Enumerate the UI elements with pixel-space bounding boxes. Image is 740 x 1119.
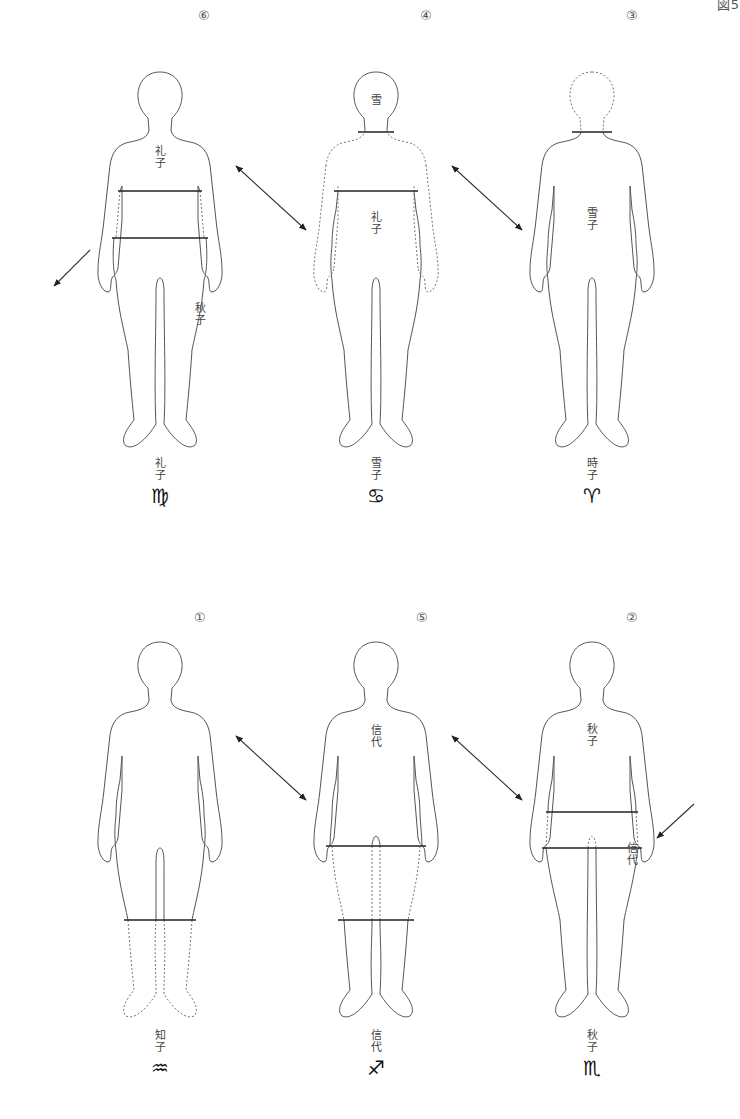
body-outline	[90, 630, 230, 1030]
inner-label-belly: 礼子	[370, 212, 382, 236]
figure-name: 雪子	[370, 458, 382, 482]
inner-label-head: 雪	[370, 95, 382, 107]
arrow-virgo-cancer	[236, 166, 306, 230]
figure-number: ⑤	[416, 610, 428, 625]
body-outline	[90, 60, 230, 460]
figure-name: 秋子	[586, 1030, 598, 1054]
figure-virgo: ⑥ 礼子 秋子 礼子 ♍	[90, 0, 230, 460]
figure-number: ②	[626, 610, 638, 625]
inner-label-chest: 信代	[370, 725, 382, 749]
inner-label-leg: 信代	[626, 843, 638, 867]
figure-aquarius: ① 知子 ♒	[90, 570, 230, 1030]
aquarius-icon: ♒	[140, 1056, 180, 1080]
body-outline	[306, 60, 446, 460]
figure-aries: ③ 雪子 時子 ♈	[522, 0, 662, 460]
sagittarius-icon: ♐	[356, 1056, 396, 1080]
inner-label-chest: 礼子	[154, 146, 166, 170]
figure-number: ⑥	[198, 8, 210, 23]
figure-number: ③	[626, 8, 638, 23]
arrow-aquarius-sagittarius	[236, 736, 306, 800]
cancer-icon: ♋	[356, 484, 396, 508]
inner-label-belly: 雪子	[586, 208, 598, 232]
figure-number: ④	[420, 8, 432, 23]
scorpio-icon: ♏	[572, 1056, 612, 1080]
aries-icon: ♈	[572, 484, 612, 508]
figure-cancer: ④ 雪 礼子 雪子 ♋	[306, 0, 446, 460]
arrow-cancer-aries	[452, 166, 522, 230]
body-outline	[522, 630, 662, 1030]
figure-name: 知子	[154, 1030, 166, 1054]
figure-number: ①	[194, 610, 206, 625]
figure-sagittarius: ⑤ 信代 信代 ♐	[306, 570, 446, 1030]
body-outline	[306, 630, 446, 1030]
arrow-in-scorpio	[657, 804, 694, 838]
virgo-icon: ♍	[140, 484, 180, 508]
inner-label-chest: 秋子	[586, 724, 598, 748]
arrow-sagittarius-scorpio	[452, 736, 522, 800]
figure-name: 礼子	[154, 458, 166, 482]
figure-name: 時子	[586, 458, 598, 482]
body-outline	[522, 60, 662, 460]
figure-name: 信代	[370, 1030, 382, 1054]
inner-label-leg: 秋子	[194, 303, 206, 327]
figure-scorpio: ② 秋子 信代 秋子 ♏	[522, 570, 662, 1030]
arrow-virgo-out	[54, 250, 90, 286]
